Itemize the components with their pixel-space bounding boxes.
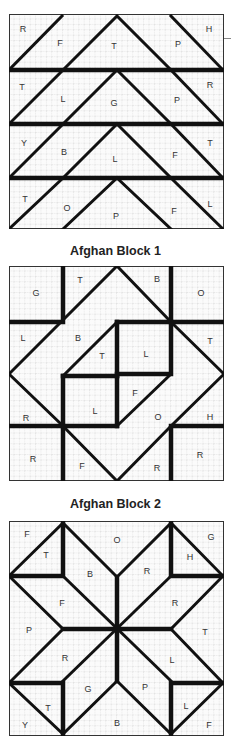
patch-label: F bbox=[132, 388, 138, 398]
patch-label: P bbox=[174, 95, 180, 105]
patch-label: R bbox=[144, 566, 151, 576]
patch-label: R bbox=[154, 463, 161, 473]
patch-label: R bbox=[197, 450, 204, 460]
patch-label: L bbox=[207, 199, 212, 209]
patch-label: B bbox=[154, 274, 160, 284]
caption-afghan-block-1: Afghan Block 1 bbox=[0, 244, 231, 258]
patch-label: F bbox=[59, 598, 65, 608]
patch-label: T bbox=[99, 351, 105, 361]
patch-label: B bbox=[114, 718, 120, 728]
patch-label: R bbox=[62, 653, 69, 663]
patch-label: R bbox=[23, 413, 30, 423]
patch-label: G bbox=[110, 98, 117, 108]
patch-label: L bbox=[169, 655, 174, 665]
patch-label: Y bbox=[22, 720, 28, 730]
patch-label: T bbox=[45, 703, 51, 713]
patch-label: T bbox=[22, 194, 28, 204]
patch-label: F bbox=[79, 461, 85, 471]
patch-label: H bbox=[206, 24, 213, 34]
patch-label: G bbox=[207, 532, 214, 542]
afghan-block-3: F T O H G B R F R P T R L G P T Y B L F bbox=[9, 521, 224, 736]
patch-label: O bbox=[197, 288, 204, 298]
patch-label: O bbox=[113, 535, 120, 545]
patch-label: P bbox=[142, 682, 148, 692]
patch-label: P bbox=[175, 39, 181, 49]
patch-label: T bbox=[19, 82, 25, 92]
patch-label: L bbox=[112, 154, 117, 164]
patch-label: H bbox=[207, 412, 214, 422]
patch-label: F bbox=[171, 206, 177, 216]
patch-label: B bbox=[61, 147, 67, 157]
patch-label: L bbox=[92, 406, 97, 416]
patch-label: O bbox=[63, 203, 70, 213]
patch-label: L bbox=[60, 94, 65, 104]
patch-label: B bbox=[87, 569, 93, 579]
afghan-block-2: G T B O L B T L T L F O H R R F R R bbox=[9, 266, 224, 481]
patch-label: F bbox=[24, 529, 30, 539]
patch-label: L bbox=[143, 349, 148, 359]
patch-label: H bbox=[187, 552, 194, 562]
patch-label: L bbox=[20, 333, 25, 343]
patch-label: T bbox=[77, 275, 83, 285]
patch-label: T bbox=[207, 138, 213, 148]
patch-label: R bbox=[172, 598, 179, 608]
patch-label: B bbox=[75, 333, 81, 343]
patch-label: F bbox=[172, 150, 178, 160]
patch-label: P bbox=[26, 625, 32, 635]
patch-label: T bbox=[43, 550, 49, 560]
caption-afghan-block-2: Afghan Block 2 bbox=[0, 497, 231, 511]
patch-label: F bbox=[206, 720, 212, 730]
patch-label: T bbox=[207, 336, 213, 346]
patch-label: L bbox=[183, 701, 188, 711]
patch-label: G bbox=[84, 684, 91, 694]
patch-label: Y bbox=[21, 138, 27, 148]
patch-label: F bbox=[57, 38, 63, 48]
patch-label: T bbox=[111, 41, 117, 51]
afghan-block-1: R F T P H T L G P R Y B L F T T O P F L bbox=[9, 14, 224, 229]
patch-label: R bbox=[30, 454, 37, 464]
patch-label: G bbox=[32, 288, 39, 298]
patch-label: P bbox=[113, 211, 119, 221]
patch-label: R bbox=[20, 24, 27, 34]
patch-label: T bbox=[202, 627, 208, 637]
patch-label: O bbox=[154, 412, 161, 422]
patch-label: R bbox=[207, 80, 214, 90]
